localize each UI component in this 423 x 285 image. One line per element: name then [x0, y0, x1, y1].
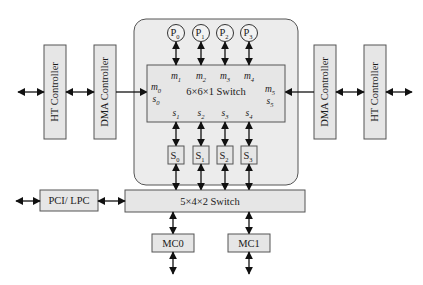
pci-lpc-label: PCI/ LPC: [48, 195, 89, 206]
mc-label: MC1: [238, 238, 260, 249]
memory-controller-1: MC1: [228, 212, 270, 274]
bottom-switch-label: 5×4×2 Switch: [180, 196, 240, 207]
memory-controller-0: MC0: [152, 212, 194, 274]
left-dma-controller: DMA Controller: [94, 45, 116, 139]
main-switch-label: 6×6×1 Switch: [186, 86, 246, 97]
right-dma-controller: DMA Controller: [314, 45, 336, 139]
left-ht-controller-label: HT Controller: [49, 62, 60, 122]
left-ht-controller: HT Controller: [44, 45, 66, 139]
architecture-diagram: HT Controller DMA Controller DMA Control…: [0, 0, 423, 285]
left-dma-controller-label: DMA Controller: [99, 57, 110, 127]
right-ht-controller: HT Controller: [364, 45, 386, 139]
mc-label: MC0: [162, 238, 184, 249]
right-dma-controller-label: DMA Controller: [319, 57, 330, 127]
right-ht-controller-label: HT Controller: [369, 62, 380, 122]
